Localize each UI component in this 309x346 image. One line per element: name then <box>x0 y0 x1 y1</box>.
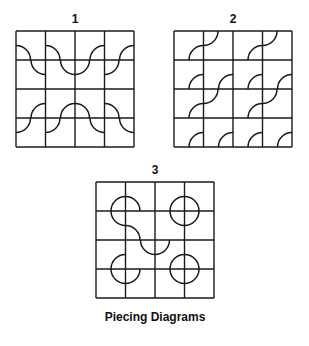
quarter-circle-arc <box>16 46 31 61</box>
quarter-circle-arc <box>219 75 234 90</box>
quarter-circle-arc <box>219 133 234 148</box>
quarter-circle-arc <box>189 133 204 148</box>
quarter-circle-arc <box>90 118 105 133</box>
quarter-circle-arc <box>126 226 141 241</box>
quarter-circle-arc <box>263 31 278 46</box>
quarter-circle-arc <box>90 46 105 61</box>
quarter-circle-arc <box>111 255 126 270</box>
quarter-circle-arc <box>170 269 185 284</box>
quarter-circle-arc <box>75 104 90 119</box>
quarter-circle-arc <box>75 60 90 75</box>
quarter-circle-arc <box>189 75 204 90</box>
quarter-circle-arc <box>126 269 141 284</box>
quarter-circle-arc <box>248 104 263 119</box>
quarter-circle-arc <box>61 104 76 119</box>
quarter-circle-arc <box>126 197 141 212</box>
diagram-2-label: 2 <box>230 12 237 26</box>
piecing-diagram-3 <box>96 182 214 298</box>
quarter-circle-arc <box>204 89 219 104</box>
quarter-circle-arc <box>46 118 61 133</box>
quarter-circle-arc <box>105 60 120 75</box>
quarter-circle-arc <box>185 211 200 226</box>
quarter-circle-arc <box>248 133 263 148</box>
quarter-circle-arc <box>31 104 46 119</box>
quarter-circle-arc <box>170 255 185 270</box>
quarter-circle-arc <box>120 118 135 133</box>
quarter-circle-arc <box>248 75 263 90</box>
quarter-circle-arc <box>185 197 200 212</box>
caption: Piecing Diagrams <box>105 310 206 324</box>
diagram-3-label: 3 <box>152 163 159 177</box>
quarter-circle-arc <box>278 133 293 148</box>
quarter-circle-arc <box>16 118 31 133</box>
quarter-circle-arc <box>155 240 170 255</box>
quarter-circle-arc <box>263 89 278 104</box>
quarter-circle-arc <box>105 104 120 119</box>
quarter-circle-arc <box>141 240 156 255</box>
piecing-diagram-1 <box>16 31 134 147</box>
quarter-circle-arc <box>170 197 185 212</box>
quarter-circle-arc <box>248 46 263 61</box>
quarter-circle-arc <box>46 46 61 61</box>
quarter-circle-arc <box>170 211 185 226</box>
quarter-circle-arc <box>120 46 135 61</box>
quarter-circle-arc <box>61 60 76 75</box>
quarter-circle-arc <box>189 104 204 119</box>
quarter-circle-arc <box>278 75 293 90</box>
diagram-1-label: 1 <box>72 12 79 26</box>
quarter-circle-arc <box>185 269 200 284</box>
quarter-circle-arc <box>189 46 204 61</box>
quarter-circle-arc <box>204 31 219 46</box>
piecing-diagram-2 <box>174 31 292 147</box>
quarter-circle-arc <box>111 211 126 226</box>
quarter-circle-arc <box>185 255 200 270</box>
quarter-circle-arc <box>111 197 126 212</box>
quarter-circle-arc <box>31 60 46 75</box>
quarter-circle-arc <box>111 269 126 284</box>
